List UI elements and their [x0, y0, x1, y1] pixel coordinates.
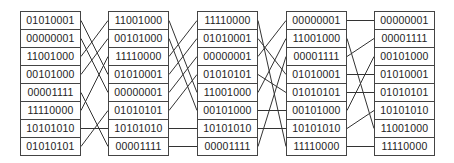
connection-line	[347, 57, 374, 111]
cell: 00000001	[21, 30, 80, 48]
cell: 11001000	[109, 12, 168, 30]
column-3: 11110000 01010001 00000001 01010101 1100…	[197, 11, 258, 156]
cell: 11110000	[109, 48, 168, 66]
connection-line	[347, 111, 374, 129]
cell: 10101010	[287, 120, 346, 138]
cell: 01010001	[287, 66, 346, 84]
cell: 00001111	[375, 30, 434, 48]
cell: 00000001	[375, 12, 434, 30]
cell: 10101010	[21, 120, 80, 138]
permutation-diagram: 01010001 00000001 11001000 00101000 0000…	[0, 0, 454, 163]
cell: 00101000	[21, 66, 80, 84]
cell: 01010001	[109, 66, 168, 84]
cell: 11110000	[198, 12, 257, 30]
connection-line	[81, 39, 108, 75]
column-1: 01010001 00000001 11001000 00101000 0000…	[20, 11, 81, 156]
cell: 00001111	[287, 48, 346, 66]
cell: 10101010	[198, 120, 257, 138]
connection-line	[347, 39, 374, 57]
cell: 01010101	[109, 102, 168, 120]
cell: 01010101	[21, 138, 80, 155]
cell: 11110000	[21, 102, 80, 120]
cell: 01010101	[287, 84, 346, 102]
cell: 01010001	[21, 12, 80, 30]
cell: 11001000	[287, 30, 346, 48]
cell: 00000001	[287, 12, 346, 30]
cell: 01010001	[198, 30, 257, 48]
cell: 00101000	[198, 102, 257, 120]
connection-line	[258, 57, 286, 147]
cell: 10101010	[109, 120, 168, 138]
cell: 01010001	[375, 66, 434, 84]
cell: 11001000	[21, 48, 80, 66]
cell: 01010101	[375, 84, 434, 102]
connection-line	[169, 21, 197, 57]
cell: 00101000	[109, 30, 168, 48]
connection-line	[169, 75, 197, 111]
cell: 00101000	[375, 48, 434, 66]
column-5: 00000001 00001111 00101000 01010001 0101…	[374, 11, 435, 156]
cell: 11110000	[375, 138, 434, 155]
cell: 00001111	[21, 84, 80, 102]
connection-line	[169, 39, 197, 75]
cell: 10101010	[375, 102, 434, 120]
cell: 01010101	[198, 66, 257, 84]
cell: 11110000	[287, 138, 346, 155]
cell: 00000001	[109, 84, 168, 102]
cell: 11001000	[198, 84, 257, 102]
cell: 00001111	[198, 138, 257, 155]
cell: 00000001	[198, 48, 257, 66]
column-2: 11001000 00101000 11110000 01010001 0000…	[108, 11, 169, 156]
column-4: 00000001 11001000 00001111 01010001 0101…	[286, 11, 347, 156]
cell: 11001000	[375, 120, 434, 138]
cell: 00001111	[109, 138, 168, 155]
cell: 00101000	[287, 102, 346, 120]
connection-line	[81, 21, 108, 57]
connection-line	[169, 57, 197, 93]
connection-line	[81, 93, 108, 147]
